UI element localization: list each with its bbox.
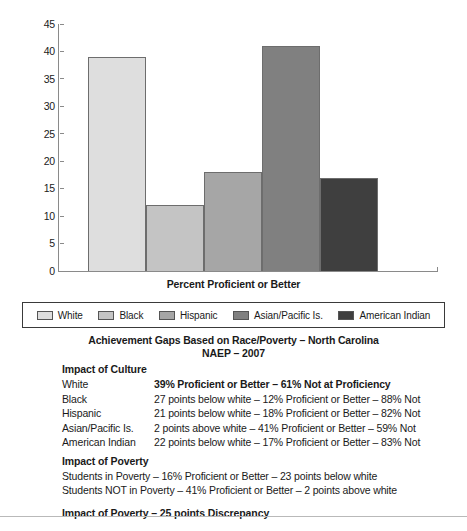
detail-row-label: Asian/Pacific Is. bbox=[62, 421, 154, 436]
impact-of-poverty-rows: Students in Poverty – 16% Proficient or … bbox=[62, 469, 452, 498]
x-axis-endcap bbox=[437, 267, 438, 272]
detail-row-label: Hispanic bbox=[62, 406, 154, 421]
poverty-line: Students in Poverty – 16% Proficient or … bbox=[62, 469, 452, 484]
y-axis-tick-mark bbox=[60, 106, 64, 107]
impact-of-culture-heading: Impact of Culture bbox=[62, 362, 452, 377]
legend-item-label: Asian/Pacific Is. bbox=[254, 310, 323, 321]
y-axis-tick-mark bbox=[60, 216, 64, 217]
detail-row-value: 39% Proficient or Better – 61% Not at Pr… bbox=[154, 377, 452, 392]
y-axis-tick-label: 25 bbox=[44, 129, 60, 140]
chart-titles: Achievement Gaps Based on Race/Poverty –… bbox=[0, 334, 467, 360]
y-axis-tick-label: 20 bbox=[44, 156, 60, 167]
detail-row: Black27 points below white – 12% Profici… bbox=[62, 392, 452, 407]
y-axis-tick-mark bbox=[60, 51, 64, 52]
y-axis-tick-label: 10 bbox=[44, 211, 60, 222]
y-axis-tick-label: 35 bbox=[44, 74, 60, 85]
y-axis-tick-label: 5 bbox=[49, 238, 60, 249]
y-axis-tick-mark bbox=[60, 133, 64, 134]
legend-swatch-icon bbox=[338, 311, 354, 320]
y-axis-tick-mark bbox=[60, 161, 64, 162]
y-axis-line bbox=[58, 24, 59, 272]
legend-swatch-icon bbox=[98, 311, 114, 320]
y-axis-tick-mark bbox=[60, 24, 64, 25]
y-axis-tick-mark bbox=[60, 243, 64, 244]
detail-row-value: 21 points below white – 18% Proficient o… bbox=[154, 406, 452, 421]
detail-row-value: 22 points below white – 17% Proficient o… bbox=[154, 435, 452, 450]
chart-main-title: Achievement Gaps Based on Race/Poverty –… bbox=[0, 334, 467, 347]
footer-divider bbox=[0, 516, 467, 517]
impact-of-poverty-summary: Impact of Poverty – 25 points Discrepanc… bbox=[62, 506, 452, 521]
legend-item-label: Hispanic bbox=[180, 310, 218, 321]
legend-item[interactable]: American Indian bbox=[338, 310, 430, 321]
legend-item[interactable]: Hispanic bbox=[159, 310, 218, 321]
y-axis-tick-label: 0 bbox=[49, 266, 60, 277]
detail-row-value: 2 points above white – 41% Proficient or… bbox=[154, 421, 452, 436]
plot-area: 454035302520151050 bbox=[58, 24, 438, 272]
impact-of-poverty-heading: Impact of Poverty bbox=[62, 454, 452, 469]
bar-group bbox=[88, 24, 378, 271]
legend-item-label: White bbox=[58, 310, 83, 321]
legend-swatch-icon bbox=[233, 311, 249, 320]
poverty-line: Students NOT in Poverty – 41% Proficient… bbox=[62, 483, 452, 498]
detail-row: Asian/Pacific Is.2 points above white – … bbox=[62, 421, 452, 436]
detail-row-value: 27 points below white – 12% Proficient o… bbox=[154, 392, 452, 407]
detail-row: Hispanic21 points below white – 18% Prof… bbox=[62, 406, 452, 421]
legend-swatch-icon bbox=[159, 311, 175, 320]
detail-row-label: American Indian bbox=[62, 435, 154, 450]
y-axis-tick-label: 30 bbox=[44, 101, 60, 112]
y-axis-tick-label: 15 bbox=[44, 183, 60, 194]
legend-item-label: American Indian bbox=[359, 310, 430, 321]
bar-white bbox=[88, 57, 146, 271]
detail-row: White39% Proficient or Better – 61% Not … bbox=[62, 377, 452, 392]
bar-american-indian bbox=[320, 178, 378, 271]
detail-row-label: White bbox=[62, 377, 154, 392]
bar-black bbox=[146, 205, 204, 271]
y-axis-tick-label: 40 bbox=[44, 46, 60, 57]
chart-legend: WhiteBlackHispanicAsian/Pacific Is.Ameri… bbox=[22, 302, 445, 328]
x-axis-line bbox=[58, 271, 438, 272]
details-block: Impact of Culture White39% Proficient or… bbox=[62, 362, 452, 521]
legend-item[interactable]: Black bbox=[98, 310, 143, 321]
bar-hispanic bbox=[204, 172, 262, 271]
chart-sub-title: NAEP – 2007 bbox=[0, 347, 467, 360]
x-axis-title: Percent Proficient or Better bbox=[0, 278, 467, 290]
y-axis-tick-mark bbox=[60, 78, 64, 79]
legend-swatch-icon bbox=[37, 311, 53, 320]
legend-item[interactable]: Asian/Pacific Is. bbox=[233, 310, 323, 321]
detail-row-label: Black bbox=[62, 392, 154, 407]
bar-chart: 454035302520151050 Percent Proficient or… bbox=[0, 0, 467, 296]
detail-row: American Indian22 points below white – 1… bbox=[62, 435, 452, 450]
y-axis-tick-label: 45 bbox=[44, 19, 60, 30]
legend-item-label: Black bbox=[119, 310, 143, 321]
y-axis-tick-mark bbox=[60, 188, 64, 189]
impact-of-culture-rows: White39% Proficient or Better – 61% Not … bbox=[62, 377, 452, 454]
legend-item[interactable]: White bbox=[37, 310, 83, 321]
y-axis-tick-mark bbox=[60, 271, 64, 272]
bar-asian-pacific-is bbox=[262, 46, 320, 271]
